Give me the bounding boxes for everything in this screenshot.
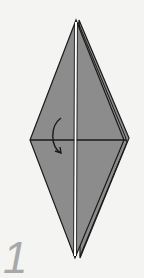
origami-diagram: 1 (0, 0, 144, 278)
step-number: 1 (3, 236, 27, 278)
center-gap (75, 22, 76, 256)
